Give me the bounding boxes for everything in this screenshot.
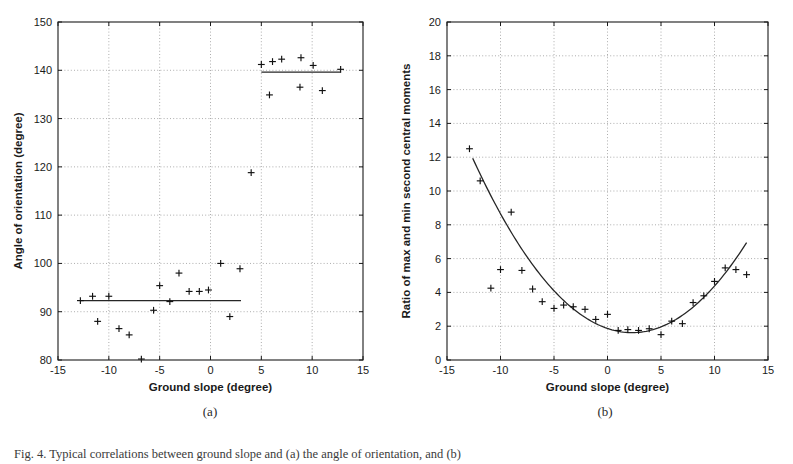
y-tick-label: 90 [40, 306, 52, 318]
y-tick-label: 8 [435, 219, 441, 231]
x-tick-label: 10 [708, 364, 720, 376]
y-tick-label: 4 [435, 286, 441, 298]
data-point-marker [156, 282, 163, 289]
y-tick-labels: 8090100110120130140150 [34, 16, 52, 366]
data-point-marker [310, 62, 317, 69]
y-tick-label: 140 [34, 64, 52, 76]
data-point-marker [319, 87, 326, 94]
x-tick-label: -15 [50, 364, 66, 376]
x-tick-label: -10 [493, 364, 509, 376]
data-point-marker [176, 270, 183, 277]
data-point-marker [196, 288, 203, 295]
y-tick-label: 18 [429, 50, 441, 62]
y-tick-label: 120 [34, 161, 52, 173]
y-tick-label: 80 [40, 354, 52, 366]
grid-lines [447, 22, 768, 360]
x-tick-label: -15 [439, 364, 455, 376]
y-tick-label: 2 [435, 320, 441, 332]
x-tick-label: 0 [207, 364, 213, 376]
x-tick-labels: -15-10-5051015 [50, 364, 369, 376]
x-tick-label: -10 [101, 364, 117, 376]
data-point-marker [226, 313, 233, 320]
data-point-marker [297, 84, 304, 91]
data-point-marker [615, 327, 622, 334]
data-point-marker [126, 331, 133, 338]
data-point-marker [529, 286, 536, 293]
panel-b-caption: (b) [545, 404, 665, 420]
data-point-marker [466, 145, 473, 152]
figure-container: -15-10-50510158090100110120130140150Grou… [0, 0, 793, 464]
data-point-marker [551, 305, 558, 312]
data-point-marker [519, 267, 526, 274]
data-point-marker [138, 356, 145, 363]
y-axis-title: Ratio of max and min second central mome… [400, 64, 412, 319]
data-point-marker [166, 298, 173, 305]
x-tick-label: 0 [604, 364, 610, 376]
panel-a-caption: (a) [150, 404, 270, 420]
data-point-marker [237, 265, 244, 272]
figure-caption: Fig. 4. Typical correlations between gro… [14, 447, 779, 462]
data-point-marker [539, 298, 546, 305]
data-point-marker [105, 293, 112, 300]
data-point-marker [94, 318, 101, 325]
data-point-marker [298, 54, 305, 61]
data-point-marker [258, 61, 265, 68]
chart-panel-b: -15-10-505101502468101214161820Ground sl… [390, 0, 793, 400]
data-point-marker [116, 325, 123, 332]
data-point-marker [733, 266, 740, 273]
data-point-marker [217, 260, 224, 267]
x-axis-title: Ground slope (degree) [546, 381, 669, 393]
data-point-marker [89, 293, 96, 300]
data-point-marker [604, 311, 611, 318]
data-point-marker [700, 292, 707, 299]
fit-lines [80, 72, 340, 300]
x-tick-label: -5 [155, 364, 165, 376]
y-tick-label: 6 [435, 253, 441, 265]
data-point-marker [743, 271, 750, 278]
data-point-marker [487, 285, 494, 292]
data-point-marker [570, 303, 577, 310]
y-tick-label: 14 [429, 117, 441, 129]
y-tick-label: 20 [429, 16, 441, 28]
x-tick-label: 15 [357, 364, 369, 376]
y-tick-label: 0 [435, 354, 441, 366]
x-tick-label: -5 [549, 364, 559, 376]
data-point-marker [186, 288, 193, 295]
chart-a-canvas: -15-10-50510158090100110120130140150Grou… [0, 0, 396, 400]
data-point-marker [248, 169, 255, 176]
data-point-marker [582, 306, 589, 313]
y-tick-label: 12 [429, 151, 441, 163]
x-tick-label: 5 [258, 364, 264, 376]
x-tick-label: 10 [306, 364, 318, 376]
x-axis-title: Ground slope (degree) [149, 381, 272, 393]
data-point-marker [278, 56, 285, 63]
data-point-marker [266, 92, 273, 99]
fit-curve [473, 158, 747, 332]
y-tick-label: 130 [34, 113, 52, 125]
y-tick-label: 100 [34, 257, 52, 269]
y-tick-label: 150 [34, 16, 52, 28]
chart-panel-a: -15-10-50510158090100110120130140150Grou… [0, 0, 396, 400]
data-point-marker [77, 297, 84, 304]
y-tick-labels: 02468101214161820 [429, 16, 441, 366]
data-point-marker [497, 266, 504, 273]
y-tick-label: 16 [429, 84, 441, 96]
x-tick-label: 5 [658, 364, 664, 376]
x-tick-labels: -15-10-5051015 [439, 364, 774, 376]
y-axis-title: Angle of orientation (degree) [12, 112, 24, 269]
chart-b-canvas: -15-10-505101502468101214161820Ground sl… [390, 0, 793, 400]
y-tick-label: 10 [429, 185, 441, 197]
data-point-marker [508, 209, 515, 216]
data-points [466, 145, 750, 338]
x-tick-label: 15 [762, 364, 774, 376]
data-point-marker [150, 307, 157, 314]
data-point-marker [269, 58, 276, 65]
data-point-marker [658, 331, 665, 338]
y-tick-label: 110 [34, 209, 52, 221]
